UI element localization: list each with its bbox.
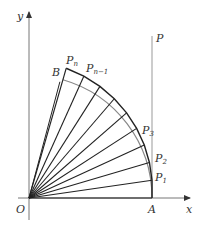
point-a-label: A — [147, 203, 156, 216]
sector-figure — [29, 68, 152, 198]
ray-o-p5 — [29, 113, 127, 198]
point-p1-label: P1 — [154, 171, 167, 185]
diagram-canvas: y x O A B P P1 P2 P3 Pn Pn−1 — [0, 0, 200, 229]
circle-arc-ab — [63, 80, 152, 198]
point-pn-label: Pn — [65, 54, 78, 68]
origin-label: O — [16, 203, 25, 216]
point-b-label: B — [51, 66, 60, 79]
point-pn-1-label: Pn−1 — [85, 62, 108, 76]
ray-o-p2 — [29, 162, 149, 198]
x-axis-label: x — [186, 203, 193, 216]
y-axis-label: y — [16, 10, 24, 23]
point-p-label: P — [155, 32, 164, 45]
point-p2-label: P2 — [154, 152, 167, 166]
